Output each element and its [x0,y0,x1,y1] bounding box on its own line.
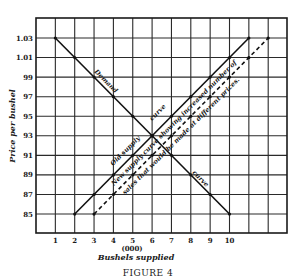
figure-caption: FIGURE 4 [123,268,174,278]
y-tick-label: 1.01 [16,53,33,62]
y-tick-label: 93 [23,131,33,140]
data-point [209,76,212,79]
new-supply-curve [94,38,268,214]
data-point [209,95,212,98]
data-point [92,76,95,79]
data-point [170,154,173,157]
y-tick-label: 91 [23,151,33,160]
data-point [112,193,115,196]
y-tick-label: 95 [23,112,33,121]
data-point [170,134,173,137]
data-point [228,76,231,79]
y-tick-label: 97 [23,92,33,101]
x-tick-label: 4 [111,236,116,245]
data-point [267,36,270,39]
y-tick-label: 85 [23,210,33,219]
data-point [247,56,250,59]
curves [54,36,270,215]
data-point [228,56,231,59]
data-point [131,173,134,176]
x-tick-label: 3 [92,236,97,245]
x-tick-label: 1 [53,236,58,245]
data-point [189,115,192,118]
data-point [92,212,95,215]
x-axis-title: Bushels supplied [97,252,175,262]
data-point [92,193,95,196]
x-tick-label: 10 [225,236,235,245]
x-tick-label: 6 [150,236,155,245]
x-tick-label: 9 [208,236,213,245]
data-point [228,212,231,215]
y-tick-label: 87 [23,190,33,199]
y-tick-label: 99 [23,73,33,82]
y-tick-label: 1.03 [16,34,33,43]
demand-label: Demand [92,67,120,95]
data-point [131,115,134,118]
data-point [209,193,212,196]
old-supply-curve-label: curve [148,103,168,123]
data-point [151,154,154,157]
data-point [247,36,250,39]
x-tick-label: 8 [188,236,193,245]
x-axis-ticks: 12345678910 [53,236,235,245]
data-point [73,212,76,215]
data-point [112,95,115,98]
supply-demand-chart: 1.031.019997959391898785 12345678910 Pri… [0,0,297,279]
y-axis-ticks: 1.031.019997959391898785 [16,34,33,219]
x-tick-label: 2 [72,236,77,245]
data-point [170,115,173,118]
data-point [54,36,57,39]
y-tick-label: 89 [23,170,33,179]
y-axis-title: Price per bushel [7,89,17,164]
demand-curve [55,38,229,214]
data-point [189,95,192,98]
x-tick-label: 7 [169,236,174,245]
old-supply-curve [75,38,249,214]
data-point [73,56,76,59]
